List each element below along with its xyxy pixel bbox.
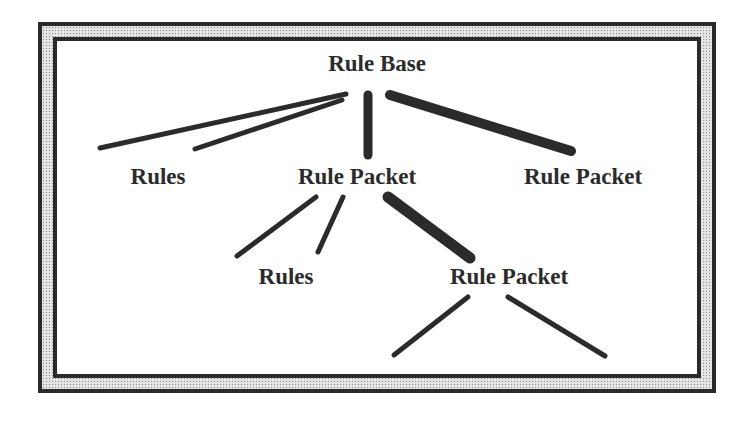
node-rules-left: Rules — [131, 165, 186, 188]
node-rule-packet-middle: Rule Packet — [298, 165, 416, 188]
node-rule-packet-nested: Rule Packet — [450, 265, 568, 288]
node-rule-packet-right: Rule Packet — [524, 165, 642, 188]
edge-packet3-to-child-b — [508, 297, 605, 356]
edge-root-to-packet2 — [390, 95, 571, 151]
edge-packet1-to-rules2 — [237, 197, 316, 256]
node-rules-nested: Rules — [259, 265, 314, 288]
edge-packet1-to-packet3 — [388, 197, 470, 258]
edge-packet1-to-rules2 — [318, 197, 343, 252]
node-rule-base: Rule Base — [328, 52, 426, 75]
edge-packet3-to-child-a — [394, 297, 468, 355]
